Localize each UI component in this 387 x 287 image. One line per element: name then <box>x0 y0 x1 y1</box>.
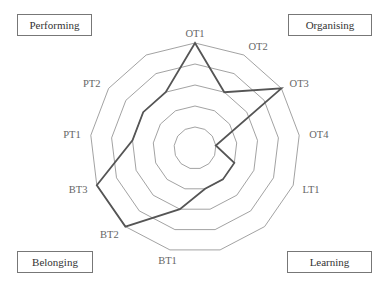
axis-label-pt1: PT1 <box>63 129 81 140</box>
axis-label-lt1: LT1 <box>303 184 320 195</box>
series-line-0 <box>97 43 282 227</box>
axis-label-bt1: BT1 <box>158 255 177 266</box>
grid-ring-1 <box>174 127 216 168</box>
axis-label-pt2: PT2 <box>83 78 101 89</box>
axis-label-ot4: OT4 <box>309 129 329 140</box>
data-series <box>97 43 282 227</box>
grid-ring-5 <box>91 43 299 250</box>
axis-label-ot1: OT1 <box>185 28 204 39</box>
grid-ring-4 <box>112 64 279 230</box>
radar-chart: OT1OT2OT3OT4LT1BT1BT2BT3PT1PT2 <box>0 0 387 287</box>
grid-ring-3 <box>133 85 258 209</box>
axis-label-bt3: BT3 <box>69 184 88 195</box>
axis-label-ot2: OT2 <box>248 41 267 52</box>
radar-grid <box>91 43 299 250</box>
axis-label-bt2: BT2 <box>100 229 119 240</box>
axis-labels: OT1OT2OT3OT4LT1BT1BT2BT3PT1PT2 <box>63 28 329 266</box>
axis-label-ot3: OT3 <box>290 78 309 89</box>
